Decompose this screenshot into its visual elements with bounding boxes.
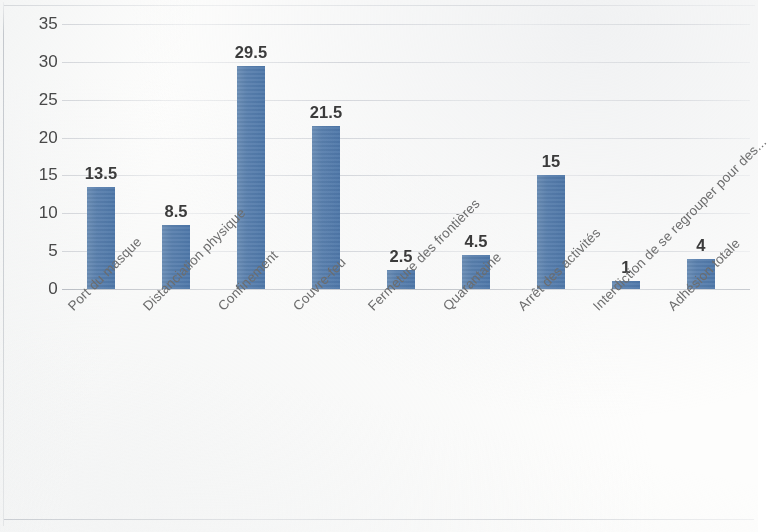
bar-value-label: 4.5 [464,232,487,251]
gridline [62,175,750,176]
y-axis-tick-label: 20 [18,128,58,148]
gridline [62,100,750,101]
bar-value-label: 4 [696,236,705,255]
y-axis-tick-label: 15 [18,165,58,185]
y-axis-tick-label: 0 [18,279,58,299]
bar-value-label: 15 [542,152,561,171]
bar-value-label: 8.5 [164,202,187,221]
bar-value-label: 29.5 [235,43,268,62]
y-axis-tick-label: 10 [18,203,58,223]
gridline [62,24,750,25]
bar-value-label: 13.5 [85,164,118,183]
y-axis-tick-label: 5 [18,241,58,261]
y-axis-tick-label: 30 [18,52,58,72]
gridline [62,62,750,63]
bar-value-label: 21.5 [310,103,343,122]
y-axis-tick-label: 35 [18,14,58,34]
gridline [62,138,750,139]
y-axis-tick-label: 25 [18,90,58,110]
